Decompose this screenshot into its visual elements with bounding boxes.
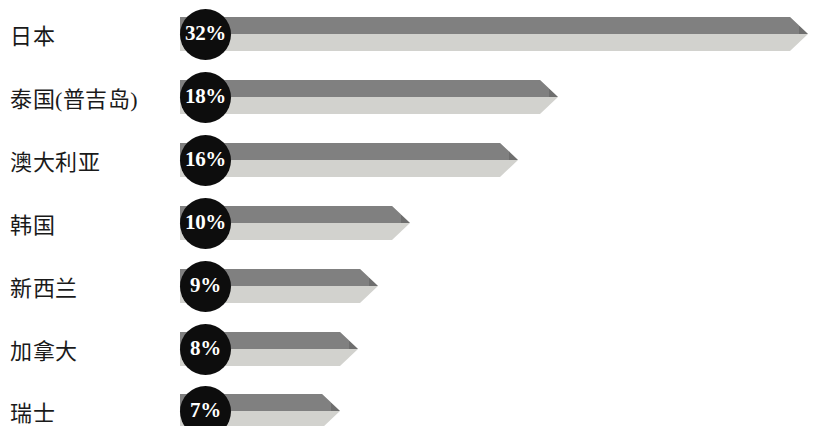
value-bubble: 32% [180, 9, 231, 60]
value-bubble: 10% [180, 198, 231, 249]
value-bubble: 16% [180, 135, 231, 186]
category-label: 澳大利亚 [10, 128, 100, 191]
value-bubble: 7% [180, 386, 231, 426]
value-label: 7% [190, 400, 221, 421]
bar-track [180, 80, 558, 114]
chart-row: 泰国(普吉岛) 18% [0, 65, 813, 128]
value-label: 8% [190, 338, 221, 359]
category-label: 瑞士 [10, 379, 55, 426]
value-label: 10% [185, 212, 226, 233]
category-label: 泰国(普吉岛) [10, 65, 138, 128]
category-label: 日本 [10, 2, 55, 65]
value-bubble: 8% [180, 324, 231, 375]
chart-row: 日本 32% [0, 2, 813, 65]
bar-shape [180, 17, 808, 51]
category-label: 新西兰 [10, 254, 78, 317]
chart-row: 瑞士 7% [0, 379, 813, 426]
value-label: 18% [185, 86, 226, 107]
chart-row: 新西兰 9% [0, 254, 813, 317]
bar-track [180, 17, 808, 51]
chart-row: 韩国 10% [0, 191, 813, 254]
value-label: 32% [185, 23, 226, 44]
chart-row: 加拿大 8% [0, 317, 813, 380]
category-label: 韩国 [10, 191, 55, 254]
value-bubble: 9% [180, 261, 231, 312]
bar-chart: 日本 32% 泰国(普吉岛) 18% 澳大利亚 [0, 0, 813, 426]
chart-row: 澳大利亚 16% [0, 128, 813, 191]
value-label: 16% [185, 149, 226, 170]
value-bubble: 18% [180, 72, 231, 123]
category-label: 加拿大 [10, 317, 78, 380]
value-label: 9% [190, 275, 221, 296]
bar-shape [180, 80, 558, 114]
